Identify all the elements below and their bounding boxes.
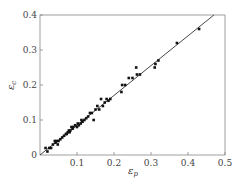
y-tick-label: 0.2 (23, 80, 37, 90)
data-point (135, 66, 138, 69)
y-tick-label: 0 (31, 150, 37, 160)
data-point (52, 143, 55, 146)
data-point (120, 91, 123, 94)
x-axis-label: εp (128, 165, 138, 178)
data-point (136, 73, 139, 76)
data-point (154, 63, 157, 66)
x-tick-label: 0.3 (144, 158, 159, 168)
data-point (198, 28, 201, 31)
data-point (96, 105, 99, 108)
data-point (46, 150, 49, 153)
data-points (44, 28, 200, 153)
data-point (100, 98, 103, 101)
data-point (176, 42, 179, 45)
data-point (44, 147, 47, 150)
data-point (102, 105, 105, 108)
data-point (50, 147, 53, 150)
y-tick-label: 0.3 (23, 45, 38, 55)
x-tick-label: 0.1 (70, 158, 84, 168)
data-point (109, 98, 112, 101)
data-point (121, 84, 124, 87)
data-point (98, 108, 101, 111)
data-point (103, 101, 106, 104)
y-tick-label: 0.1 (23, 115, 37, 125)
data-point (87, 115, 90, 118)
data-point (131, 77, 134, 80)
data-point (91, 112, 94, 115)
data-point (92, 119, 95, 122)
data-point (94, 108, 97, 111)
data-point (56, 143, 59, 146)
x-tick-label: 0.2 (107, 158, 121, 168)
data-point (124, 84, 127, 87)
data-point (139, 73, 142, 76)
y-axis-label: εc (5, 81, 18, 90)
x-tick-label: 0.5 (218, 158, 233, 168)
data-point (153, 66, 156, 69)
x-axis-ticks: 0.10.20.30.40.5 (70, 152, 233, 168)
x-tick-label: 0.4 (181, 158, 196, 168)
scatter-chart: 00.10.20.30.4 0.10.20.30.40.5 εp εc (0, 0, 243, 183)
data-point (128, 77, 131, 80)
y-tick-label: 0.4 (23, 10, 38, 20)
data-point (69, 129, 72, 132)
data-point (157, 59, 160, 62)
